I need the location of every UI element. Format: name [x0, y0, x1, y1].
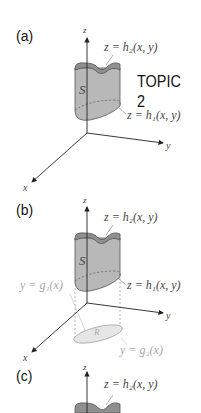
- surface-top-label-c: z = h₂(x, y): [104, 377, 158, 392]
- panel-b-label: (b): [16, 202, 33, 218]
- surface-bottom-label-b: z = h₁(x, y): [127, 278, 181, 293]
- panel-c-label: (c): [16, 368, 32, 384]
- solid-label-b: S: [79, 253, 86, 269]
- y-axis-label-a: y: [166, 140, 170, 151]
- right-curve-label: y = g₂(x): [120, 343, 163, 358]
- region-label: R: [94, 327, 100, 337]
- surface-top-label-b: z = h₂(x, y): [104, 210, 158, 225]
- z-axis-label-a: z: [83, 25, 87, 35]
- x-axis-label-a: x: [23, 182, 27, 193]
- z-axis-label-b: z: [83, 195, 87, 205]
- solid-label-a: S: [79, 82, 86, 98]
- left-curve-label: y = g₁(x): [20, 278, 63, 293]
- surface-top-label-a: z = h₂(x, y): [104, 40, 158, 55]
- y-axis-label-b: y: [166, 310, 170, 321]
- surface-bottom-label-a: z = h₁(x, y): [127, 108, 181, 123]
- topic-label: TOPIC 2: [137, 72, 191, 112]
- x-axis-label-b: x: [23, 352, 27, 363]
- z-axis-label-c: z: [83, 362, 87, 372]
- panel-a-label: (a): [16, 28, 33, 44]
